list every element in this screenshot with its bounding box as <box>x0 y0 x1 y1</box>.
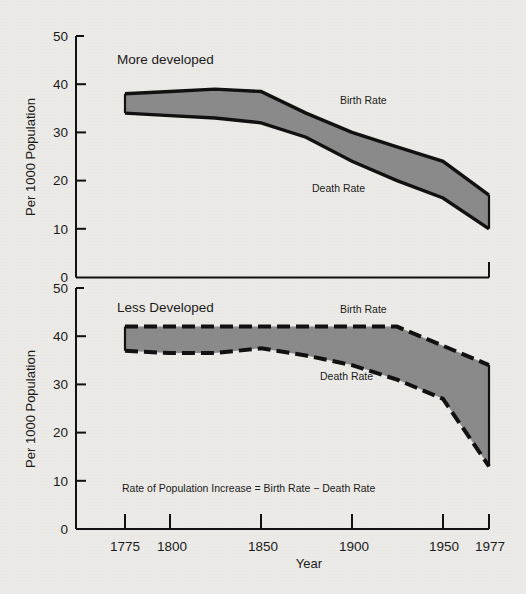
bottom-chart-xtick-label-1977: 1977 <box>475 539 505 554</box>
top-chart-ytick-label-20: 20 <box>53 173 68 188</box>
bottom-chart-ytick-label-50: 50 <box>53 281 68 296</box>
bottom-chart-xtick-label-1850: 1850 <box>248 539 278 554</box>
top-chart-ytick-label-40: 40 <box>53 77 68 92</box>
figure-background <box>0 0 526 594</box>
population-rates-figure: 50 40 30 20 10 0 Per 1000 Population Mor… <box>0 0 526 594</box>
bottom-chart-xtick-label-1800: 1800 <box>157 539 187 554</box>
bottom-chart-birth-rate-label: Birth Rate <box>340 303 387 315</box>
bottom-chart-ytick-label-10: 10 <box>53 474 68 489</box>
bottom-chart-xtick-label-1900: 1900 <box>339 539 369 554</box>
bottom-chart-y-axis-title: Per 1000 Population <box>23 350 38 468</box>
population-increase-formula: Rate of Population Increase = Birth Rate… <box>122 482 375 494</box>
x-axis-title: Year <box>296 556 323 571</box>
top-chart-ytick-label-30: 30 <box>53 125 68 140</box>
bottom-chart-ytick-label-20: 20 <box>53 425 68 440</box>
top-chart-title-label: More developed <box>117 52 214 67</box>
chart-svg: 50 40 30 20 10 0 Per 1000 Population Mor… <box>0 0 526 594</box>
bottom-chart-ytick-label-0: 0 <box>60 522 68 537</box>
top-chart-y-axis-title: Per 1000 Population <box>23 98 38 216</box>
bottom-chart-xtick-label-1775: 1775 <box>110 539 140 554</box>
bottom-chart-ytick-label-30: 30 <box>53 377 68 392</box>
top-chart-death-rate-label: Death Rate <box>312 182 365 194</box>
bottom-chart-ytick-label-40: 40 <box>53 329 68 344</box>
top-chart-ytick-label-50: 50 <box>53 29 68 44</box>
bottom-chart-death-rate-label: Death Rate <box>320 370 373 382</box>
bottom-chart-title-label: Less Developed <box>117 300 214 315</box>
bottom-chart-xtick-label-1950: 1950 <box>429 539 459 554</box>
top-chart-birth-rate-label: Birth Rate <box>340 94 387 106</box>
top-chart-ytick-label-10: 10 <box>53 222 68 237</box>
